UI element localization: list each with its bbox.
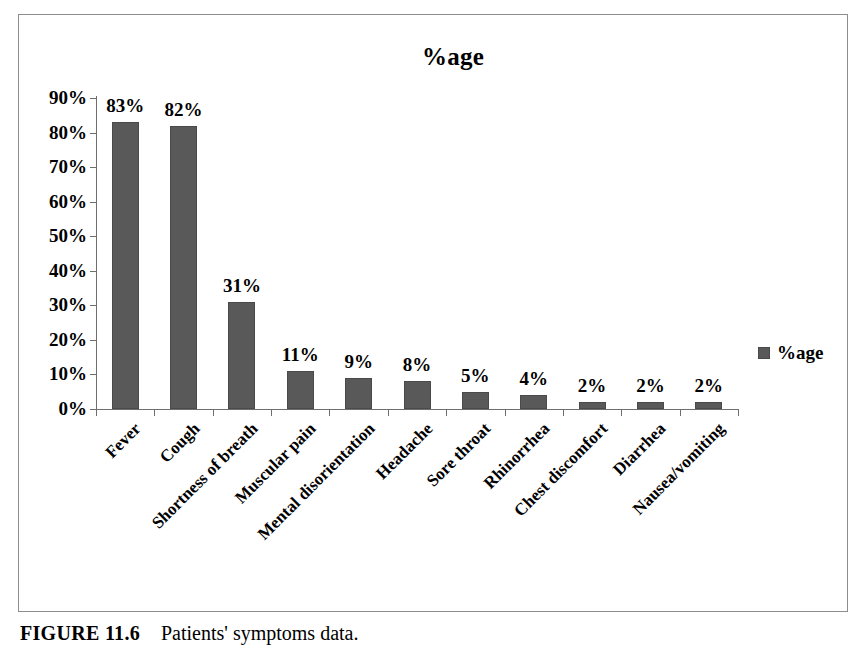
x-axis-category-label-text: Mental disorientation — [253, 419, 378, 544]
plot-area: 0%10%20%30%40%50%60%70%80%90% 83%82%31%1… — [96, 98, 738, 409]
y-axis-tick-label: 50% — [49, 225, 87, 247]
chart-title: %age — [19, 43, 847, 71]
bar-value-label: 83% — [106, 95, 144, 117]
caption-figure-number: FIGURE 11.6 — [20, 622, 140, 644]
y-axis-tick-label: 90% — [49, 87, 87, 109]
chart-legend: %age — [758, 342, 823, 364]
caption-text: Patients' symptoms data. — [161, 622, 358, 644]
y-axis-tick-label: 10% — [49, 363, 87, 385]
y-axis-tick — [90, 98, 96, 99]
legend-label: %age — [777, 342, 823, 364]
y-axis-tick — [90, 374, 96, 375]
y-axis-tick — [90, 305, 96, 306]
y-axis-tick-label: 70% — [49, 156, 87, 178]
y-axis-tick — [90, 340, 96, 341]
y-axis-tick-label: 40% — [49, 260, 87, 282]
x-axis-category-label-text: Shortness of breath — [148, 419, 262, 533]
y-axis-tick-label: 60% — [49, 191, 87, 213]
legend-swatch-icon — [758, 347, 770, 359]
y-axis-tick-label: 0% — [59, 398, 88, 420]
x-axis-category-label-text: Fever — [102, 419, 146, 463]
y-axis-tick — [90, 202, 96, 203]
bar-value-label: 82% — [165, 99, 203, 121]
figure-caption: FIGURE 11.6 Patients' symptoms data. — [20, 622, 358, 645]
y-axis-tick-label: 80% — [49, 122, 87, 144]
bar — [112, 122, 139, 409]
x-axis-category-label-text: Cough — [155, 419, 203, 467]
y-axis-tick-label: 20% — [49, 329, 87, 351]
x-axis-tick — [96, 409, 97, 416]
y-axis-tick-label: 30% — [49, 294, 87, 316]
bar — [170, 126, 197, 409]
figure-frame: %age 0%10%20%30%40%50%60%70%80%90% 83%82… — [18, 14, 848, 612]
y-axis-tick — [90, 133, 96, 134]
y-axis-tick — [90, 167, 96, 168]
x-axis-line — [96, 409, 738, 410]
bar-value-label: 31% — [223, 275, 261, 297]
x-axis-category-label: Shortness of breath — [248, 319, 362, 433]
y-axis-line — [96, 96, 97, 411]
y-axis-tick — [90, 271, 96, 272]
y-axis-tick — [90, 236, 96, 237]
